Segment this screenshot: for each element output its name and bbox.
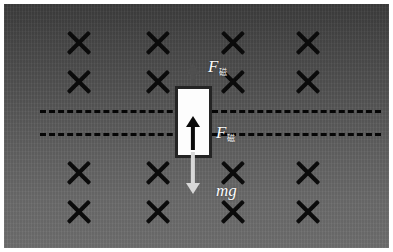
arrow-shaft xyxy=(191,125,195,150)
force-subscript: 磁 xyxy=(227,134,235,143)
field-into-page-symbol xyxy=(295,160,321,186)
field-into-page-symbol xyxy=(220,199,246,225)
field-into-page-symbol xyxy=(145,69,171,95)
field-into-page-symbol xyxy=(66,199,92,225)
field-into-page-symbol xyxy=(66,69,92,95)
magnetic-force-label-middle: F磁 xyxy=(216,124,235,143)
field-into-page-symbol xyxy=(145,199,171,225)
field-into-page-symbol xyxy=(220,30,246,56)
field-into-page-symbol xyxy=(66,160,92,186)
field-into-page-symbol xyxy=(145,30,171,56)
field-into-page-symbol xyxy=(295,30,321,56)
diagram-canvas: F磁 F磁 mg xyxy=(0,0,393,252)
field-into-page-symbol xyxy=(295,69,321,95)
arrow-shaft xyxy=(191,152,195,185)
field-into-page-symbol xyxy=(66,30,92,56)
magnetic-force-label-top: F磁 xyxy=(208,58,227,77)
current-direction-arrow xyxy=(185,116,201,150)
force-symbol: F xyxy=(216,123,226,142)
field-into-page-symbol xyxy=(295,199,321,225)
force-symbol: F xyxy=(208,57,218,76)
gravity-arrow xyxy=(185,152,201,194)
magnetic-field-region: F磁 F磁 mg xyxy=(4,4,389,248)
field-into-page-symbol xyxy=(145,160,171,186)
gravity-label: mg xyxy=(216,182,237,199)
arrow-head-down xyxy=(186,183,200,194)
force-subscript: 磁 xyxy=(219,68,227,77)
gravity-symbol: mg xyxy=(216,181,237,200)
